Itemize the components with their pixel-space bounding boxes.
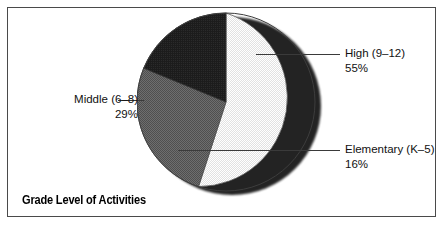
chart-caption: Grade Level of Activities	[22, 193, 146, 207]
slice-label-elementary-value: 16%	[345, 157, 434, 172]
leader-line-elementary	[178, 150, 340, 151]
slice-label-high-value: 55%	[345, 61, 405, 76]
pie-graphic	[137, 12, 323, 204]
slice-label-middle-value: 29%	[74, 107, 138, 122]
slice-label-high-text: High (9–12)	[345, 47, 405, 59]
leader-line-high	[256, 54, 340, 55]
slice-label-elementary-text: Elementary (K–5)	[345, 143, 434, 155]
slice-label-high: High (9–12) 55%	[345, 46, 405, 76]
pie-chart-figure: High (9–12) 55% Elementary (K–5) 16% Mid…	[0, 0, 446, 233]
slice-label-elementary: Elementary (K–5) 16%	[345, 142, 434, 172]
pie-svg	[137, 12, 323, 204]
slice-label-middle-text: Middle (6–8)	[74, 93, 138, 105]
slice-label-middle: Middle (6–8) 29%	[74, 92, 138, 122]
